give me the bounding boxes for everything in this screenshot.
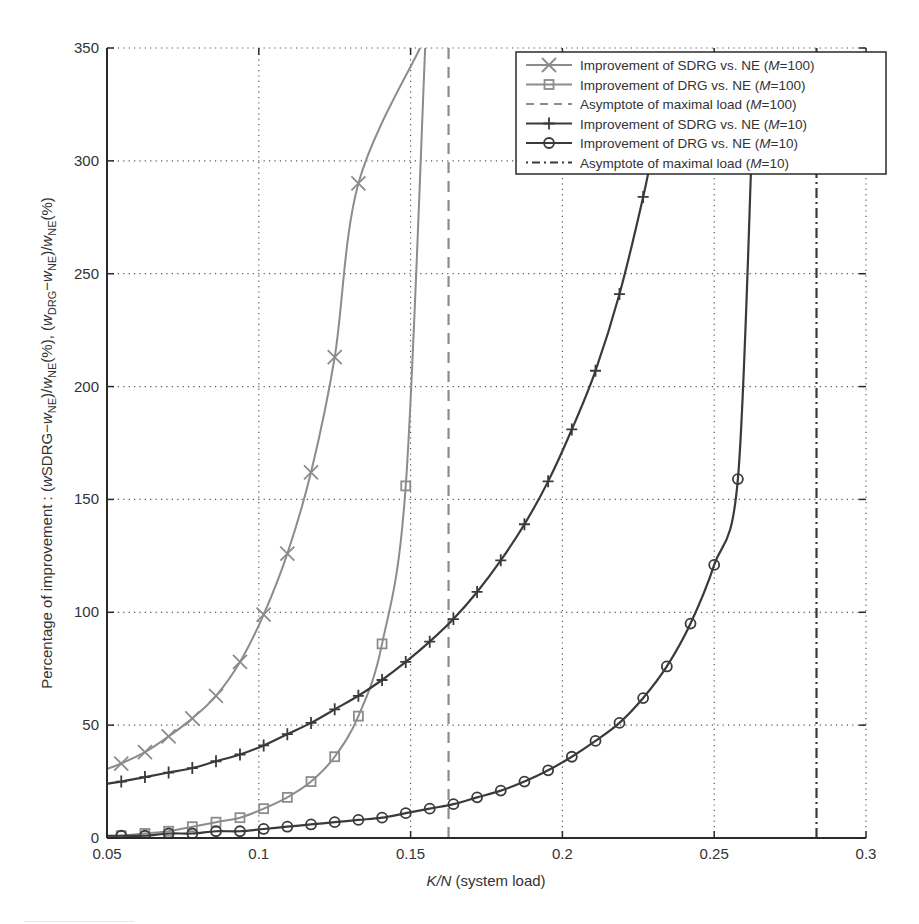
y-tick-label: 0 <box>91 829 99 846</box>
x-tick-label: 0.1 <box>248 845 269 862</box>
x-marker <box>162 729 176 743</box>
x-axis-label: K/N (system load) <box>426 872 545 889</box>
plus-marker <box>116 776 127 788</box>
plus-marker <box>210 755 221 767</box>
plus-marker <box>377 674 388 686</box>
plus-marker <box>519 518 530 530</box>
plus-marker <box>590 365 601 377</box>
y-axis-label: Percentage of improvement : (wSDRG−wNE)/… <box>38 197 58 689</box>
plus-marker <box>234 748 245 760</box>
y-tick-label: 250 <box>74 265 99 282</box>
x-tick-label: 0.05 <box>92 845 121 862</box>
series-line <box>107 48 420 771</box>
x-tick-label: 0.2 <box>552 845 573 862</box>
series-line <box>107 138 752 840</box>
y-tick-label: 50 <box>82 716 99 733</box>
x-marker <box>304 465 318 479</box>
y-tick-label: 300 <box>74 152 99 169</box>
x-tick-label: 0.15 <box>396 845 425 862</box>
legend-label: Improvement of SDRG vs. NE (M=100) <box>580 58 814 73</box>
series-path <box>107 138 655 783</box>
x-marker <box>209 689 223 703</box>
plus-marker <box>566 423 577 435</box>
plus-marker <box>543 475 554 487</box>
plus-marker <box>139 771 150 783</box>
series-line <box>107 138 655 787</box>
legend-label: Improvement of DRG vs. NE (M=100) <box>580 78 805 93</box>
x-marker <box>185 711 199 725</box>
x-marker <box>114 757 128 771</box>
y-tick-label: 350 <box>74 39 99 56</box>
plus-marker <box>614 288 625 300</box>
plus-marker <box>638 191 649 203</box>
legend-label: Improvement of SDRG vs. NE (M=10) <box>580 117 807 132</box>
x-tick-label: 0.25 <box>700 845 729 862</box>
x-marker <box>233 655 247 669</box>
plus-marker <box>163 767 174 779</box>
legend: Improvement of SDRG vs. NE (M=100)Improv… <box>516 52 886 174</box>
series-path <box>107 48 420 769</box>
x-tick-label: 0.3 <box>856 845 877 862</box>
plus-marker <box>282 728 293 740</box>
line-chart: 0.050.10.150.20.250.3 050100150200250300… <box>0 0 919 924</box>
legend-label: Asymptote of maximal load (M=10) <box>580 156 789 171</box>
plus-marker <box>329 703 340 715</box>
plus-marker <box>258 739 269 751</box>
legend-label: Improvement of DRG vs. NE (M=10) <box>580 136 798 151</box>
series-path <box>107 48 425 837</box>
clipped-caption-line <box>24 921 134 922</box>
x-marker <box>351 176 365 190</box>
plus-marker <box>353 690 364 702</box>
series-path <box>107 138 752 836</box>
x-marker <box>257 608 271 622</box>
x-marker <box>138 745 152 759</box>
plus-marker <box>306 717 317 729</box>
plus-marker <box>187 762 198 774</box>
series-line <box>107 48 425 840</box>
x-marker <box>280 547 294 561</box>
y-tick-label: 100 <box>74 603 99 620</box>
legend-label: Asymptote of maximal load (M=100) <box>580 97 796 112</box>
y-tick-label: 150 <box>74 490 99 507</box>
y-tick-label: 200 <box>74 378 99 395</box>
